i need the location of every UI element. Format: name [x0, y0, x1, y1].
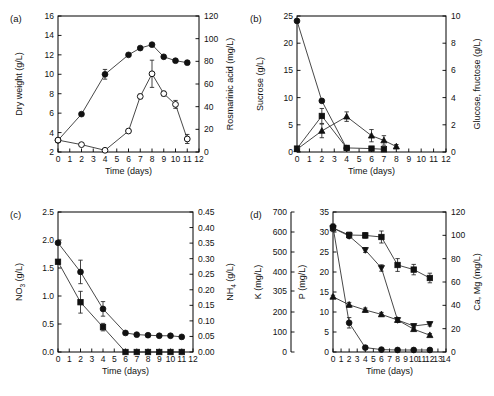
- y-right-tick-label: 60: [451, 277, 461, 287]
- y-left-tick-label: 30: [320, 227, 330, 237]
- x-tick-label: 6: [379, 354, 384, 364]
- y-right-tick-label: 20: [204, 124, 214, 134]
- series-glucose: [294, 108, 386, 151]
- y-left-tick-label: 0.5: [42, 319, 54, 329]
- series-nh4: [55, 259, 184, 355]
- x-tick-label: 2: [78, 354, 83, 364]
- y-left-tick-label: 14: [45, 30, 55, 40]
- y-left-tick-label: 20: [320, 267, 330, 277]
- x-tick-label: 8: [150, 154, 155, 164]
- x-tick-label: 9: [157, 354, 162, 364]
- panel-letter: (d): [250, 209, 262, 220]
- y-left-tick-label: 0: [324, 347, 329, 357]
- panel-d: 01234567891011121314Time (days)051015202…: [247, 196, 494, 396]
- y-right-tick-label: 10: [451, 11, 461, 21]
- x-tick-label: 3: [332, 154, 337, 164]
- y-right-tick-label: 80: [451, 254, 461, 264]
- y-left-tick-label: 25: [284, 11, 294, 21]
- y-left-axis-title: Dry weight (g/L): [14, 52, 24, 116]
- x-tick-label: 12: [194, 154, 204, 164]
- x-tick-label: 5: [114, 154, 119, 164]
- y-outer-tick-label: 0: [282, 347, 287, 357]
- x-tick-label: 8: [146, 354, 151, 364]
- x-tick-label: 7: [138, 154, 143, 164]
- y-right-tick-label: 0.15: [198, 300, 215, 310]
- y-right-tick-label: 0.30: [198, 254, 215, 264]
- y-left-tick-label: 5: [324, 327, 329, 337]
- x-tick-label: 1: [339, 354, 344, 364]
- y-right-axis-title: Rosmarinic acid (mg/L): [225, 38, 235, 131]
- y-outer-tick-label: 700: [273, 207, 287, 217]
- x-tick-label: 11: [183, 154, 192, 164]
- y-left-tick-label: 0.0: [42, 347, 54, 357]
- x-tick-label: 11: [429, 154, 438, 164]
- y-right-tick-label: 40: [204, 102, 214, 112]
- x-tick-label: 1: [307, 154, 312, 164]
- y-right-tick-label: 120: [204, 11, 218, 21]
- series-dry-weight: [55, 42, 190, 143]
- x-tick-label: 8: [394, 154, 399, 164]
- y-right-tick-label: 0: [204, 147, 209, 157]
- y-outer-tick-label: 500: [273, 247, 287, 257]
- x-tick-label: 5: [371, 354, 376, 364]
- y-right-axis-title: Glucose, fructose (g/L): [472, 38, 482, 129]
- panel-a: 0123456789101112Time (days)2468101214160…: [0, 0, 247, 196]
- y-outer-tick-label: 600: [273, 227, 287, 237]
- x-tick-label: 0: [331, 354, 336, 364]
- panel-letter: (c): [10, 209, 21, 220]
- y-left-tick-label: 35: [320, 207, 330, 217]
- y-right-tick-label: 0.20: [198, 285, 215, 295]
- y-left-tick-label: 6: [49, 108, 54, 118]
- y-left-tick-label: 16: [45, 11, 55, 21]
- y-left-tick-label: 5: [288, 120, 293, 130]
- panel-letter: (b): [250, 13, 262, 24]
- y-left-tick-label: 2: [49, 147, 54, 157]
- x-tick-label: 9: [403, 354, 408, 364]
- y-right-axis-title: NH4 (g/L): [225, 263, 237, 301]
- panel-c: 0123456789101112Time (days)0.00.51.01.52…: [0, 196, 247, 396]
- panel-d-plot: 01234567891011121314Time (days)051015202…: [247, 196, 494, 396]
- y-left-tick-label: 2.0: [42, 235, 54, 245]
- x-tick-label: 6: [369, 154, 374, 164]
- figure-root: 0123456789101112Time (days)2468101214160…: [0, 0, 494, 396]
- x-tick-label: 9: [406, 154, 411, 164]
- y-left-tick-label: 20: [284, 38, 294, 48]
- y-right-tick-label: 60: [204, 79, 214, 89]
- x-axis-title: Time (days): [105, 166, 152, 176]
- x-tick-label: 1: [67, 154, 72, 164]
- x-tick-label: 6: [123, 354, 128, 364]
- x-tick-label: 3: [91, 154, 96, 164]
- x-tick-label: 10: [416, 154, 426, 164]
- y-left-axis-title: P (mg/L): [297, 265, 307, 299]
- x-tick-label: 0: [295, 154, 300, 164]
- x-tick-label: 6: [126, 154, 131, 164]
- y-left-tick-label: 10: [320, 307, 330, 317]
- x-tick-label: 12: [441, 154, 451, 164]
- y-right-tick-label: 0.05: [198, 331, 215, 341]
- x-tick-label: 4: [344, 154, 349, 164]
- x-axis-title: Time (days): [348, 166, 395, 176]
- x-tick-label: 7: [134, 354, 139, 364]
- x-tick-label: 7: [382, 154, 387, 164]
- panel-letter: (a): [10, 13, 22, 24]
- y-right-tick-label: 0.45: [198, 207, 215, 217]
- y-left-axis-title: NO3 (g/L): [14, 263, 26, 301]
- y-left-tick-label: 0: [288, 147, 293, 157]
- y-right-tick-label: 100: [204, 34, 218, 44]
- y-left-tick-label: 15: [284, 65, 294, 75]
- y-left-tick-label: 1.5: [42, 263, 54, 273]
- panel-b-plot: 0123456789101112Time (days)0510152025024…: [247, 0, 494, 196]
- x-tick-label: 10: [166, 354, 176, 364]
- x-tick-label: 10: [171, 154, 181, 164]
- panel-b: 0123456789101112Time (days)0510152025024…: [247, 0, 494, 196]
- y-right-tick-label: 80: [204, 56, 214, 66]
- y-left-tick-label: 2.5: [42, 207, 54, 217]
- series-k: [330, 224, 432, 282]
- y-right-tick-label: 6: [451, 65, 456, 75]
- x-axis-title: Time (days): [366, 366, 413, 376]
- y-right-tick-label: 0.35: [198, 238, 215, 248]
- x-tick-label: 0: [56, 354, 61, 364]
- panel-a-plot: 0123456789101112Time (days)2468101214160…: [0, 0, 247, 196]
- x-tick-label: 3: [89, 354, 94, 364]
- y-right-tick-label: 0.40: [198, 223, 215, 233]
